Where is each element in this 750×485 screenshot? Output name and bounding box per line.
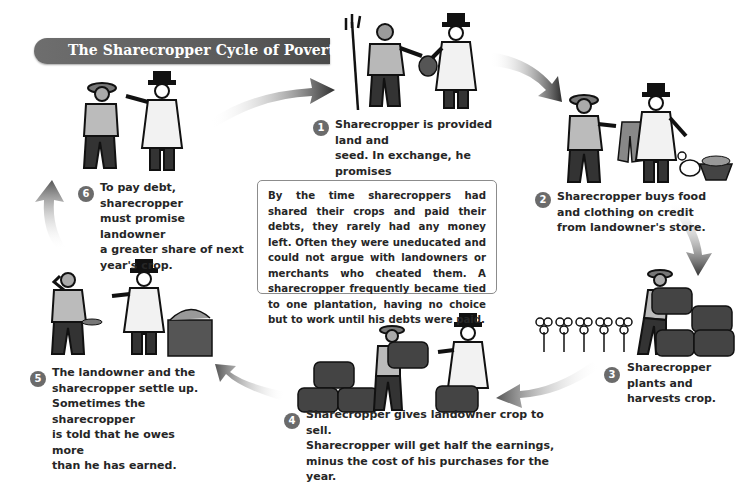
step-2-line-2: and clothing on credit [557, 205, 715, 221]
step-6-line-3: a greater share of next [100, 242, 248, 258]
step-5-line-5: than he has earned. [52, 458, 210, 474]
cotton-bales-icon [298, 362, 378, 412]
step-3-badge: 3 [604, 367, 620, 383]
step-4-line-3: minus the cost of his purchases for the … [306, 454, 564, 485]
sharecropper-figure [368, 24, 422, 106]
landowner-figure [636, 84, 686, 182]
sharecropper-figure [52, 273, 86, 354]
step-5-line-2: sharecropper settle up. [52, 381, 210, 397]
rooster-icon [678, 152, 700, 176]
arrow-5-to-6-icon [35, 180, 66, 250]
step-5-badge: 5 [30, 371, 46, 387]
arrow-4-to-5-icon [215, 364, 286, 400]
pitchfork-icon [346, 14, 360, 110]
step-1-badge: 1 [313, 120, 329, 136]
illustration-step-1 [340, 0, 490, 115]
step-5-line-1: The landowner and the [52, 365, 210, 381]
money-table-icon [168, 309, 212, 356]
landowner-figure [126, 72, 182, 170]
step-6-badge: 6 [78, 186, 94, 202]
arrow-1-to-2-icon [490, 52, 562, 102]
step-5-caption: 5 The landowner and the sharecropper set… [30, 365, 210, 474]
step-2-caption: 2 Sharecropper buys food and clothing on… [535, 189, 715, 236]
step-6-caption: 6 To pay debt, sharecropper must promise… [78, 180, 248, 273]
step-5-line-4: is told that he owes more [52, 427, 210, 458]
arrow-3-to-4-icon [496, 362, 600, 408]
illustration-step-3 [520, 260, 750, 360]
sharecropper-figure [84, 83, 118, 168]
landowner-figure [432, 14, 476, 108]
step-6-line-4: year's crop. [100, 258, 248, 274]
hat-in-hand-icon [82, 319, 102, 325]
step-2-line-3: from landowner's store. [557, 220, 715, 236]
step-2-line-1: Sharecropper buys food [557, 189, 715, 205]
food-basket-icon [700, 156, 732, 180]
sharecropper-figure [568, 95, 616, 182]
step-2-badge: 2 [535, 192, 551, 208]
step-4-line-2: Sharecropper will get half the earnings, [306, 438, 564, 454]
step-5-line-3: Sometimes the sharecropper [52, 396, 210, 427]
step-4-caption: 4 Sharecropper gives landowner crop to s… [284, 407, 564, 485]
step-4-line-1: Sharecropper gives landowner crop to sel… [306, 407, 564, 438]
illustration-step-2 [556, 64, 750, 194]
step-3-line-3: harvests crop. [627, 391, 744, 407]
step-1-line-2: seed. In exchange, he promises [335, 148, 493, 179]
step-3-line-1: Sharecropper [627, 360, 744, 376]
step-3-line-2: plants and [627, 376, 744, 392]
seed-bag-icon [419, 56, 437, 76]
carried-bale-icon [388, 342, 428, 368]
step-1-line-1: Sharecropper is provided land and [335, 117, 493, 148]
cotton-plants-icon [536, 318, 632, 352]
step-4-badge: 4 [284, 413, 300, 429]
landowner-figure [112, 260, 164, 354]
illustration-step-6 [60, 60, 200, 180]
info-box: By the time sharecroppers had shared the… [257, 180, 497, 294]
step-3-caption: 3 Sharecropper plants and harvests crop. [604, 360, 744, 407]
step-6-line-1: To pay debt, sharecropper [100, 180, 248, 211]
step-6-line-2: must promise landowner [100, 211, 248, 242]
